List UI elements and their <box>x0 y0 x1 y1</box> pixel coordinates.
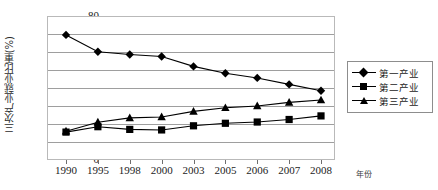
gridline <box>48 124 334 125</box>
chart-container: 三次产业就业比重(%) 80706050403020100 1990199519… <box>0 0 438 190</box>
gridline <box>48 106 334 107</box>
diamond-marker-icon <box>351 67 377 79</box>
x-tick-mark <box>162 160 163 164</box>
gridline <box>48 142 334 143</box>
square-marker-icon <box>351 81 377 93</box>
x-tick-mark <box>66 160 67 164</box>
x-axis-unit-label: 年份 <box>356 168 372 179</box>
chart-legend: 第一产业 第二产业 第三产业 <box>347 61 433 113</box>
triangle-marker-icon <box>351 95 377 107</box>
y-axis-title: 三次产业就业比重(%) <box>0 0 18 170</box>
x-tick-mark <box>225 160 226 164</box>
gridline <box>48 34 334 35</box>
legend-item-series-3[interactable]: 第三产业 <box>351 94 429 108</box>
x-tick-mark <box>257 160 258 164</box>
legend-item-series-2[interactable]: 第二产业 <box>351 80 429 94</box>
y-axis-title-text: 三次产业就业比重(%) <box>2 36 17 133</box>
x-tick-mark <box>130 160 131 164</box>
gridline <box>48 88 334 89</box>
legend-label-series-1: 第一产业 <box>377 66 419 80</box>
legend-item-series-1[interactable]: 第一产业 <box>351 66 429 80</box>
legend-label-series-3: 第三产业 <box>377 94 419 108</box>
x-tick-mark <box>194 160 195 164</box>
x-tick-mark <box>321 160 322 164</box>
gridline <box>48 52 334 53</box>
x-tick-mark <box>289 160 290 164</box>
gridline <box>48 70 334 71</box>
plot-area <box>47 16 335 160</box>
x-tick-label: 2008 <box>301 164 341 176</box>
x-tick-mark <box>98 160 99 164</box>
legend-label-series-2: 第二产业 <box>377 80 419 94</box>
